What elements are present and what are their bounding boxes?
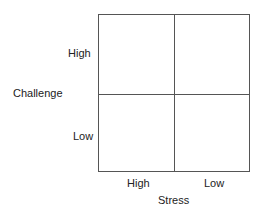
vertical-divider: [174, 15, 175, 171]
x-tick-high: High: [127, 177, 150, 190]
y-axis-title: Challenge: [13, 87, 63, 100]
y-tick-low: Low: [73, 130, 93, 143]
x-tick-low: Low: [204, 177, 224, 190]
horizontal-divider: [99, 94, 249, 95]
x-axis-title: Stress: [158, 194, 189, 207]
y-tick-high: High: [68, 47, 91, 60]
matrix-grid: [98, 14, 250, 172]
